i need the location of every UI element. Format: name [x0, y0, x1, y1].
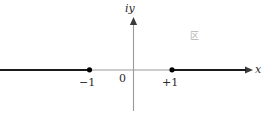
complex-plane-figure: iy x 0 −1 +1 区 — [0, 0, 271, 115]
branch-point-pos1-marker — [169, 67, 174, 72]
origin-label: 0 — [119, 73, 126, 84]
x-axis-label: x — [255, 64, 261, 75]
region-annotation-label: 区 — [190, 32, 199, 41]
y-axis-label: iy — [125, 3, 135, 14]
tick-label-pos1: +1 — [162, 77, 178, 88]
tick-label-neg1: −1 — [79, 77, 95, 88]
y-axis-arrowhead — [130, 17, 137, 25]
x-axis-arrowhead — [245, 66, 253, 73]
figure-canvas — [0, 0, 271, 115]
branch-point-neg1-marker — [87, 67, 92, 72]
